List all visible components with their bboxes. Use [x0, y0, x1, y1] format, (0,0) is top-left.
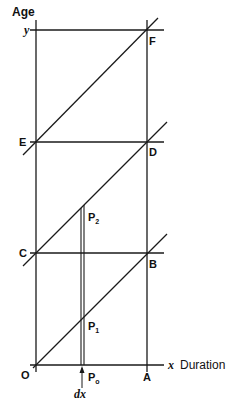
p2-main: P: [88, 211, 95, 223]
point-label-C: C: [19, 247, 27, 259]
point-label-D: D: [149, 146, 157, 158]
point-label-E: E: [19, 136, 26, 148]
point-label-F: F: [149, 35, 156, 47]
point-label-P1: P1: [88, 320, 99, 334]
dx-arrow-head: [80, 366, 85, 373]
p2-sub: 2: [95, 218, 99, 225]
age-axis-label: Age: [12, 5, 35, 19]
x-value-label: x: [167, 358, 174, 372]
p1-sub: 1: [95, 327, 99, 334]
p0-sub: o: [95, 378, 99, 385]
lifeline-E-F: [23, 18, 158, 155]
point-label-P2: P2: [88, 211, 99, 225]
duration-axis-label: Duration: [180, 358, 225, 372]
lexis-diagram: Age y F E D C B O A x Duration P2 P1 Po …: [0, 0, 247, 400]
origin-label: O: [21, 369, 30, 381]
p0-main: P: [88, 371, 95, 383]
point-label-P0: Po: [88, 371, 100, 385]
y-value-label: y: [22, 23, 30, 37]
p1-main: P: [88, 320, 95, 332]
point-label-A: A: [143, 371, 151, 383]
point-label-B: B: [149, 258, 157, 270]
lifeline-C-D: [23, 122, 167, 266]
dx-label: dx: [74, 387, 86, 400]
